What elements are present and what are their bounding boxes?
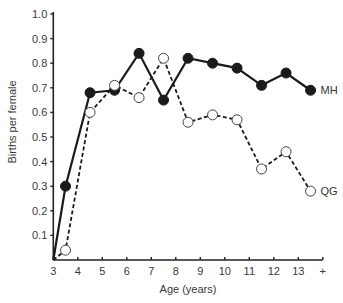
data-point-qg (232, 115, 242, 125)
data-point-qg (257, 164, 267, 174)
data-point-qg (85, 107, 95, 117)
y-tick-label: 0.3 (32, 180, 47, 192)
x-tick-label: 7 (148, 265, 154, 277)
y-ticks: 0.10.20.30.40.50.60.70.80.91.0 (32, 8, 53, 241)
data-point-mh (306, 85, 316, 95)
data-point-mh (61, 181, 71, 191)
y-tick-label: 0.9 (32, 33, 47, 45)
series-label-mh: MH (321, 84, 338, 96)
data-point-qg (281, 147, 291, 157)
x-tick-label: 8 (173, 265, 179, 277)
x-tick-label: 12 (268, 265, 280, 277)
x-tick-label: 10 (219, 265, 231, 277)
x-tick-label: 13 (292, 265, 304, 277)
x-tick-label: 11 (244, 265, 255, 277)
data-point-mh (281, 68, 291, 78)
y-tick-label: 0.5 (32, 131, 47, 143)
y-tick-label: 1.0 (32, 8, 47, 20)
y-tick-label: 0.2 (32, 205, 47, 217)
data-point-qg (110, 80, 120, 90)
data-point-qg (306, 186, 316, 196)
y-tick-label: 0.8 (32, 57, 47, 69)
series-label-qg: QG (321, 185, 338, 197)
data-point-mh (183, 53, 193, 63)
series-qg: QG (53, 53, 337, 260)
y-tick-label: 0.1 (32, 229, 47, 241)
series-mh: MH (53, 48, 337, 260)
y-tick-label: 0.7 (32, 82, 47, 94)
data-point-mh (232, 63, 242, 73)
x-tick-label: 6 (124, 265, 130, 277)
x-axis-title: Age (years) (160, 283, 217, 295)
x-tick-label: 9 (197, 265, 203, 277)
data-point-qg (134, 93, 144, 103)
data-point-mh (134, 48, 144, 58)
data-point-mh (257, 80, 267, 90)
x-tick-label: + (320, 265, 326, 277)
data-point-qg (61, 245, 71, 255)
data-point-mh (85, 88, 95, 98)
y-tick-label: 0.6 (32, 106, 47, 118)
x-tick-label: 4 (75, 265, 81, 277)
y-tick-label: 0.4 (32, 156, 47, 168)
chart: 345678910111213+ 0.10.20.30.40.50.60.70.… (0, 0, 343, 303)
data-point-qg (208, 110, 218, 120)
data-point-qg (183, 117, 193, 127)
data-point-qg (159, 53, 169, 63)
x-tick-label: 3 (50, 265, 56, 277)
series-layer: MHQG (53, 48, 337, 260)
x-tick-label: 5 (99, 265, 105, 277)
data-point-mh (159, 95, 169, 105)
y-axis-title: Births per female (6, 80, 18, 163)
data-point-mh (208, 58, 218, 68)
series-line-mh (53, 53, 310, 260)
